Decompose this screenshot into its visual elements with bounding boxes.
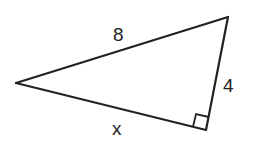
short-leg-edge	[206, 17, 228, 130]
hypotenuse-label: 8	[113, 24, 124, 45]
right-triangle-diagram: 8 4 x	[0, 0, 255, 150]
long-leg-edge	[16, 83, 206, 130]
short-leg-label: 4	[223, 75, 234, 96]
long-leg-label: x	[112, 118, 122, 139]
